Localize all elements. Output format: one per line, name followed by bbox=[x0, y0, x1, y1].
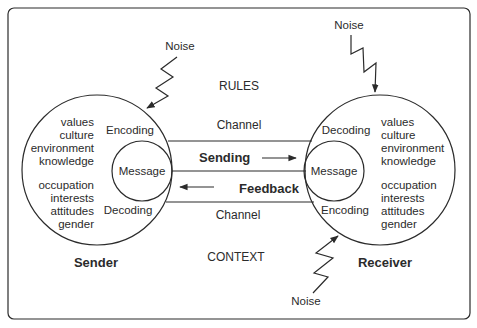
noise-label: Noise bbox=[291, 295, 320, 307]
receiver-attr: knowledge bbox=[381, 155, 436, 167]
noise-receiver-top: Noise bbox=[334, 19, 376, 92]
channel-top-label: Channel bbox=[217, 118, 262, 132]
sender-attr: interests bbox=[51, 192, 95, 204]
noise-zigzag-icon bbox=[351, 35, 376, 92]
noise-label: Noise bbox=[334, 19, 363, 31]
receiver-attr: gender bbox=[381, 218, 417, 230]
receiver-attr: culture bbox=[381, 129, 416, 141]
receiver-title: Receiver bbox=[358, 255, 412, 270]
rules-label: RULES bbox=[219, 79, 259, 93]
receiver-attr: values bbox=[381, 116, 414, 128]
sender-title: Sender bbox=[74, 255, 118, 270]
sender-attr: environment bbox=[31, 142, 95, 154]
context-label: CONTEXT bbox=[207, 250, 265, 264]
sender-attributes-top: values culture environment knowledge bbox=[31, 116, 95, 167]
noise-receiver-bottom: Noise bbox=[291, 236, 338, 307]
sender-node: Message Encoding Decoding values culture… bbox=[22, 95, 172, 270]
communication-diagram: RULES CONTEXT Channel Channel Sending Fe… bbox=[0, 0, 477, 328]
sender-attr: values bbox=[61, 116, 94, 128]
receiver-decoding-label: Decoding bbox=[322, 124, 371, 136]
sender-attr: attitudes bbox=[51, 205, 95, 217]
noise-sender: Noise bbox=[147, 40, 195, 108]
sender-attr: culture bbox=[59, 129, 94, 141]
receiver-encoding-label: Encoding bbox=[321, 204, 369, 216]
receiver-attr: occupation bbox=[381, 179, 437, 191]
channel: Channel Channel Sending Feedback bbox=[166, 118, 314, 222]
feedback-label: Feedback bbox=[239, 181, 300, 196]
sender-attributes-bottom: occupation interests attitudes gender bbox=[38, 179, 94, 230]
receiver-attr: interests bbox=[381, 192, 425, 204]
receiver-attr: attitudes bbox=[381, 205, 425, 217]
receiver-attributes-bottom: occupation interests attitudes gender bbox=[381, 179, 437, 230]
sender-attr: gender bbox=[58, 218, 94, 230]
sender-decoding-label: Decoding bbox=[104, 204, 153, 216]
noise-zigzag-icon bbox=[313, 236, 338, 293]
receiver-attributes-top: values culture environment knowledge bbox=[381, 116, 445, 167]
sender-message-label: Message bbox=[119, 165, 166, 177]
channel-bottom-label: Channel bbox=[216, 208, 261, 222]
receiver-attr: environment bbox=[381, 142, 445, 154]
sender-encoding-label: Encoding bbox=[106, 124, 154, 136]
noise-zigzag-icon bbox=[147, 57, 177, 108]
sending-label: Sending bbox=[199, 150, 250, 165]
sender-attr: knowledge bbox=[39, 155, 94, 167]
sender-attr: occupation bbox=[38, 179, 94, 191]
receiver-message-label: Message bbox=[311, 165, 358, 177]
receiver-node: Message Decoding Encoding values culture… bbox=[304, 95, 455, 270]
noise-label: Noise bbox=[165, 40, 194, 52]
